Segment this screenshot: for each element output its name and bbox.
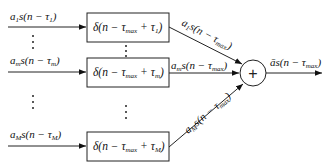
input-label-1: a1s(n − τ1) <box>10 10 57 24</box>
input-label-M: aMs(n − τM) <box>10 128 62 142</box>
input-ellipsis-upper <box>32 35 34 49</box>
input-label-m: ams(n − τm) <box>10 54 60 68</box>
block-1-output-label: a1s(n − τmax) <box>179 16 234 53</box>
block-M-output-label: aMs(n − τmax) <box>182 89 235 137</box>
input-ellipsis-lower <box>32 95 34 109</box>
block-ellipsis-lower <box>125 105 127 119</box>
block-ellipsis-upper <box>125 45 127 57</box>
block-diagram: a1s(n − τ1) ams(n − τm) aMs(n − τM) δ(n … <box>0 0 333 167</box>
plus-icon: + <box>248 65 257 82</box>
output-label: ās(n − τmax) <box>270 56 321 70</box>
block-m-output-label: ams(n − τmax) <box>171 59 228 73</box>
